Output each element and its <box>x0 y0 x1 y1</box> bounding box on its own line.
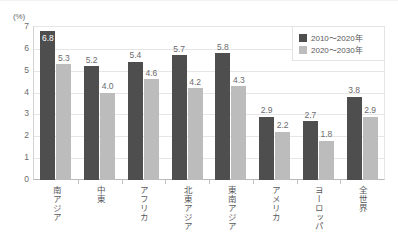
y-axis-tick-labels: 01234567 <box>0 26 29 180</box>
y-tick-label-3: 3 <box>5 108 29 118</box>
bar <box>100 93 115 180</box>
bar-value-label: 4.2 <box>185 78 206 87</box>
y-tick-label-2: 2 <box>5 130 29 140</box>
frame-top-border <box>0 0 398 1</box>
bar-value-label: 1.8 <box>316 130 337 139</box>
bar <box>56 64 71 180</box>
legend-swatch-icon-0 <box>299 34 307 42</box>
bar-value-label: 5.4 <box>125 51 146 60</box>
x-axis-tick <box>297 180 298 184</box>
bar-chart: (%) 01234567 6.85.35.24.05.44.65.74.25.8… <box>0 0 398 245</box>
bar <box>275 132 290 180</box>
bar-value-label: 3.8 <box>344 86 365 95</box>
bar <box>172 55 187 180</box>
bar-value-label: 6.8 <box>37 34 58 43</box>
x-axis-label: 南アジア <box>51 186 60 222</box>
y-tick-label-5: 5 <box>5 65 29 75</box>
x-axis-tick <box>165 180 166 184</box>
bar-value-label: 5.7 <box>169 45 190 54</box>
bar-value-label: 2.2 <box>272 121 293 130</box>
bar-value-label: 4.3 <box>228 76 249 85</box>
bar-value-label: 2.9 <box>256 106 277 115</box>
y-axis-unit-label: (%) <box>13 12 25 21</box>
bar-value-label: 5.3 <box>53 54 74 63</box>
bar <box>128 62 143 180</box>
y-tick-label-7: 7 <box>5 21 29 31</box>
x-axis-tick <box>78 180 79 184</box>
x-axis-label: 北東アジア <box>182 186 191 231</box>
x-axis-tick <box>340 180 341 184</box>
x-axis-tick <box>209 180 210 184</box>
bar-value-label: 5.8 <box>212 43 233 52</box>
bar <box>319 141 334 180</box>
x-axis-tick <box>253 180 254 184</box>
y-tick-label-6: 6 <box>5 43 29 53</box>
bar-group: 6.85.3 <box>34 27 78 180</box>
y-tick-label-0: 0 <box>5 174 29 184</box>
legend-label-1: 2020～2030年 <box>311 44 363 55</box>
x-axis-label: 全世界 <box>357 186 366 213</box>
legend: 2010～2020年 2020～2030年 <box>292 26 385 61</box>
legend-label-0: 2010～2020年 <box>311 32 363 43</box>
bar <box>188 88 203 180</box>
legend-item-0: 2010～2020年 <box>299 32 384 43</box>
bar-group: 2.92.2 <box>253 27 297 180</box>
bar-group: 5.84.3 <box>209 27 253 180</box>
bar-value-label: 2.7 <box>300 111 321 120</box>
bar-value-label: 2.9 <box>360 106 381 115</box>
legend-item-1: 2020～2030年 <box>299 44 384 55</box>
bar <box>215 53 230 180</box>
bar-value-label: 4.6 <box>141 69 162 78</box>
bar-group: 5.74.2 <box>165 27 209 180</box>
bar <box>144 79 159 180</box>
bar-group: 5.44.6 <box>122 27 166 180</box>
bar-group: 5.24.0 <box>78 27 122 180</box>
y-tick-label-4: 4 <box>5 87 29 97</box>
bar-value-label: 5.2 <box>81 56 102 65</box>
bar <box>363 117 378 180</box>
x-axis-category-labels: 南アジア中東アフリカ北東アジア東南アジアアメリカヨーロッパ全世界 <box>34 186 384 244</box>
x-axis-tick <box>122 180 123 184</box>
bar-value-label: 4.0 <box>97 82 118 91</box>
legend-swatch-icon-1 <box>299 46 307 54</box>
x-axis-label: アフリカ <box>138 186 147 222</box>
y-tick-label-1: 1 <box>5 152 29 162</box>
x-axis-label: ヨーロッパ <box>313 186 322 231</box>
x-axis-label: 中東 <box>95 186 104 204</box>
bar <box>231 86 246 180</box>
x-axis-label: アメリカ <box>270 186 279 222</box>
x-axis-label: 東南アジア <box>226 186 235 231</box>
